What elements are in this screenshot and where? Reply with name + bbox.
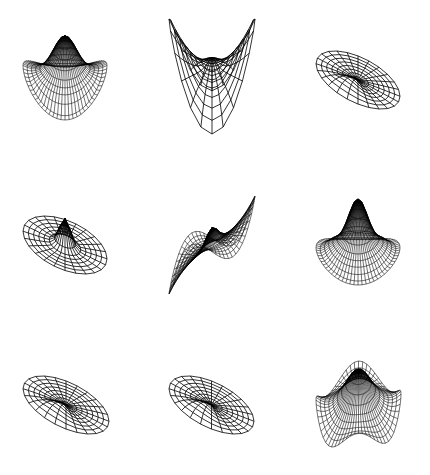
wireframe-mesh <box>22 375 110 435</box>
surface-plot-r1c3 <box>315 50 401 110</box>
wireframe-mesh <box>315 360 402 448</box>
surface-plot-r1c1 <box>22 35 108 121</box>
wireframe-mesh <box>22 35 108 121</box>
surface-plot-r2c3 <box>315 198 401 286</box>
surface-plot-r3c3 <box>315 360 402 448</box>
surface-plot-r3c1 <box>22 375 110 435</box>
surface-plot-r2c1 <box>22 215 108 275</box>
wireframe-mesh <box>315 198 401 286</box>
wireframe-mesh <box>315 50 401 110</box>
wireframe-mesh <box>22 215 108 275</box>
wireframe-mesh <box>168 18 256 135</box>
surface-plot-r3c2 <box>168 375 255 435</box>
surface-plot-r2c2 <box>168 195 256 295</box>
surface-plot-r1c2 <box>168 18 256 135</box>
wireframe-mesh <box>168 375 255 435</box>
wireframe-mesh <box>168 195 256 295</box>
surface-plot-grid <box>0 0 430 475</box>
